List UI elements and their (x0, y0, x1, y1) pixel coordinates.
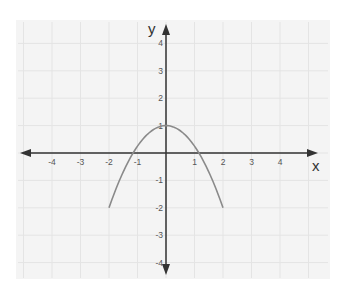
y-tick-label: -4 (155, 258, 163, 268)
plot-panel (16, 20, 330, 279)
x-tick-label: -3 (77, 157, 85, 167)
y-tick-label: 2 (158, 93, 163, 103)
y-tick-label: -1 (155, 175, 163, 185)
y-tick-label: -3 (155, 230, 163, 240)
y-axis-label: y (148, 20, 156, 37)
y-tick-label: 3 (158, 66, 163, 76)
x-tick-label: 2 (221, 157, 226, 167)
x-tick-label: -2 (105, 157, 113, 167)
x-tick-label: 4 (278, 157, 283, 167)
x-tick-label: 3 (249, 157, 254, 167)
x-tick-label: -1 (134, 157, 142, 167)
x-axis-label: x (312, 157, 320, 174)
x-tick-label: 1 (192, 157, 197, 167)
x-tick-label: -4 (48, 157, 56, 167)
y-tick-label: -2 (155, 203, 163, 213)
coordinate-plane: -4-3-2-112344321-1-2-3-4 x y (0, 0, 344, 292)
y-tick-label: 4 (158, 38, 163, 48)
